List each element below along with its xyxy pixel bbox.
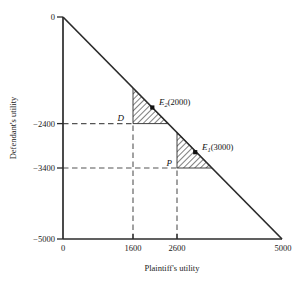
point-label-e2: E2(2000)	[158, 97, 191, 108]
point-label-e2-value: (2000)	[168, 97, 191, 107]
point-marker-e1	[193, 150, 197, 154]
x-axis-title: Plaintiff's utility	[145, 263, 201, 273]
y-tick-label-3400: −3400	[33, 163, 55, 173]
point-label-e1-value: (3000)	[211, 142, 234, 152]
point-label-d: D	[117, 113, 125, 123]
utility-frontier-chart: 0 −2400 −3400 −5000 0 1600 2600 5000 Pla…	[0, 0, 305, 288]
chart-background	[0, 0, 305, 288]
x-tick-label-1600: 1600	[125, 243, 142, 253]
point-label-p: P	[166, 158, 173, 168]
x-tick-label-5000: 5000	[275, 243, 292, 253]
x-tick-label-2600: 2600	[169, 243, 186, 253]
y-tick-label-2400: −2400	[33, 119, 55, 129]
point-label-e1: E1(3000)	[201, 142, 234, 153]
point-marker-e2	[150, 105, 154, 109]
y-axis-title: Defendant's utility	[8, 96, 18, 159]
x-tick-label-0: 0	[61, 243, 65, 253]
y-tick-label-0: 0	[51, 12, 55, 22]
y-tick-label-5000: −5000	[33, 234, 55, 244]
